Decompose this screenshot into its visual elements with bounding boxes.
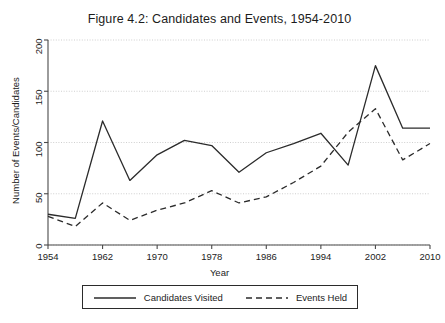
series-line-1 [48,66,430,219]
x-tick-label: 2002 [355,251,395,262]
x-tick-label: 1962 [83,251,123,262]
x-axis-title: Year [0,267,439,278]
x-tick-label: 1978 [192,251,232,262]
x-tick-label: 1970 [137,251,177,262]
legend-label: Candidates Visited [144,292,223,303]
x-tick-label: 1994 [301,251,341,262]
tick-marks [44,40,430,249]
y-tick-label: 50 [33,192,44,220]
legend-entry-2[interactable]: Events Held [245,288,347,306]
x-tick-label: 2010 [410,251,445,262]
legend-label: Events Held [296,292,347,303]
y-tick-label: 200 [33,39,44,67]
data-series-group [48,66,430,227]
solid-line-icon [93,288,137,306]
chart-legend: Candidates VisitedEvents Held [82,285,358,309]
y-tick-label: 100 [33,141,44,169]
gridlines [48,40,430,245]
x-tick-label: 1986 [246,251,286,262]
dashed-line-icon [245,288,289,306]
y-tick-label: 150 [33,90,44,118]
x-tick-label: 1954 [28,251,68,262]
y-axis-title: Number of Events/Candidates [10,70,21,210]
legend-entry-1[interactable]: Candidates Visited [93,288,223,306]
